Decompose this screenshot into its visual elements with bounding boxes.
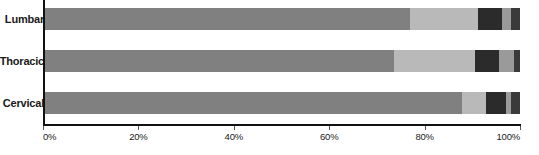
bar-segment[interactable]	[499, 50, 514, 72]
bar-segment[interactable]	[43, 92, 462, 114]
category-label-thoracic: Thoracic	[0, 55, 44, 67]
category-label-lumbar: Lumbar	[0, 13, 44, 25]
x-tick-mark	[425, 126, 426, 130]
bar-segment[interactable]	[43, 50, 394, 72]
x-tick-label: 20%	[129, 131, 147, 142]
bar-segment[interactable]	[511, 8, 520, 30]
x-tick-mark	[520, 126, 521, 130]
bar-lumbar[interactable]	[43, 8, 520, 30]
bar-cervical[interactable]	[43, 92, 520, 114]
x-tick-label: 80%	[415, 131, 433, 142]
bar-segment[interactable]	[511, 92, 520, 114]
x-tick-label: 100%	[497, 131, 521, 142]
bar-segment[interactable]	[410, 8, 478, 30]
x-tick-label: 0%	[43, 131, 56, 142]
x-tick-mark	[43, 126, 44, 130]
x-tick-label: 60%	[320, 131, 338, 142]
bar-segment[interactable]	[478, 8, 502, 30]
x-tick-mark	[138, 126, 139, 130]
x-tick-mark	[234, 126, 235, 130]
x-tick-mark	[329, 126, 330, 130]
y-axis-line	[43, 0, 45, 125]
category-label-cervical: Cervical	[0, 97, 44, 109]
bar-segment[interactable]	[514, 50, 520, 72]
bar-segment[interactable]	[475, 50, 499, 72]
bar-segment[interactable]	[43, 8, 410, 30]
stacked-bar-chart: Lumbar Thoracic Cervical 0%20%40%60%80%1…	[0, 0, 539, 155]
bar-segment[interactable]	[394, 50, 475, 72]
x-tick-label: 40%	[225, 131, 243, 142]
bar-segment[interactable]	[502, 8, 511, 30]
x-axis-line	[43, 124, 521, 126]
bar-segment[interactable]	[486, 92, 506, 114]
bar-thoracic[interactable]	[43, 50, 520, 72]
bar-segment[interactable]	[462, 92, 486, 114]
plot-area	[43, 0, 520, 124]
